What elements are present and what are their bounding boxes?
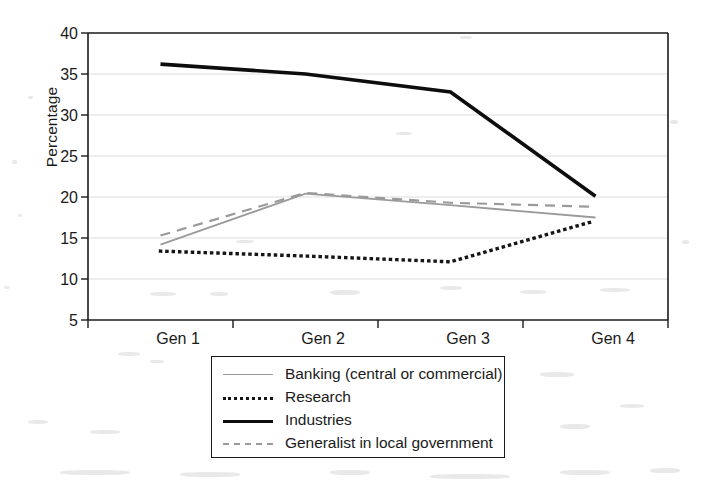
scan-artifact — [180, 472, 240, 477]
scan-artifact — [60, 470, 130, 475]
scan-artifact — [12, 160, 17, 164]
scan-artifact — [150, 360, 164, 363]
scan-artifact — [560, 470, 610, 475]
scan-artifact — [670, 120, 678, 124]
thick-black-solid-line-icon — [220, 413, 276, 427]
legend-label-generalist: Generalist in local government — [285, 434, 493, 452]
scan-artifact — [560, 424, 590, 429]
series-line-1 — [161, 221, 596, 262]
series-line-2 — [161, 64, 596, 196]
legend-item-generalist: Generalist in local government — [220, 431, 493, 454]
thin-gray-solid-line-icon — [220, 367, 276, 381]
legend-label-industries: Industries — [285, 411, 352, 429]
scan-artifact — [28, 420, 48, 424]
legend: Banking (central or commercial) Research… — [211, 356, 505, 458]
scan-artifact — [4, 286, 10, 289]
series-line-0 — [161, 194, 596, 245]
gridlines — [88, 74, 668, 279]
axes-frame — [88, 33, 668, 320]
scan-artifact — [118, 352, 140, 356]
scan-artifact — [460, 36, 472, 39]
scan-artifact — [682, 240, 689, 244]
scan-artifact — [540, 372, 574, 377]
scan-artifact — [520, 290, 546, 294]
scan-artifact — [430, 474, 510, 479]
scan-artifact — [600, 288, 630, 292]
scan-artifact — [330, 470, 370, 475]
scan-artifact — [28, 96, 33, 99]
scan-artifact — [90, 430, 120, 434]
scan-artifact — [236, 240, 254, 243]
legend-item-banking: Banking (central or commercial) — [220, 362, 502, 385]
scan-artifact — [330, 290, 360, 295]
legend-label-banking: Banking (central or commercial) — [285, 365, 502, 383]
legend-item-research: Research — [220, 385, 351, 408]
scan-artifact — [18, 214, 22, 217]
scan-artifact — [650, 468, 680, 473]
legend-item-industries: Industries — [220, 408, 352, 431]
axis-ticks — [81, 33, 668, 328]
scan-artifact — [620, 404, 644, 408]
legend-label-research: Research — [285, 388, 351, 406]
black-dotted-line-icon — [220, 390, 276, 404]
gray-dashed-line-icon — [220, 436, 276, 450]
scan-artifact — [440, 286, 462, 290]
scan-artifact — [210, 292, 228, 296]
series-lines — [161, 64, 596, 262]
line-chart: Percentage 40 35 30 25 20 15 10 5 Gen 1 … — [0, 0, 701, 497]
scan-artifact — [150, 292, 176, 296]
scan-artifact — [396, 132, 412, 135]
